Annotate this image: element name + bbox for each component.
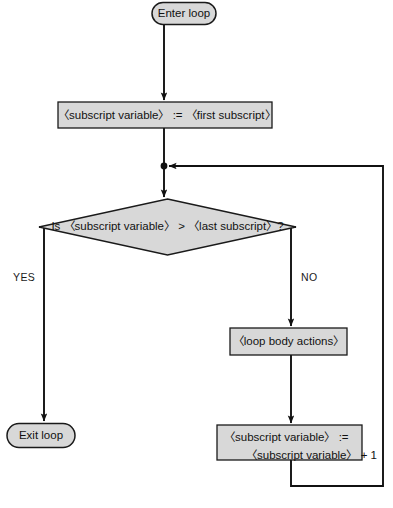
branch-label-yes: YES: [13, 271, 35, 283]
connector-yes-to-exit: [39, 227, 44, 421]
node-enter-loop: [152, 3, 216, 25]
connector-group: [39, 25, 383, 486]
node-decision-test: [39, 199, 296, 255]
node-exit-loop: [7, 424, 75, 448]
flowchart-graphics: [0, 0, 393, 508]
node-loop-body: [230, 328, 347, 355]
connector-no-to-body: [291, 227, 296, 326]
branch-label-no: NO: [301, 271, 318, 283]
node-increment-subscript: [217, 425, 362, 460]
junction-dot: [161, 163, 168, 170]
node-init-subscript: [58, 102, 272, 128]
flowchart-canvas: Enter loop 〈subscript variable〉 := 〈firs…: [0, 0, 393, 508]
